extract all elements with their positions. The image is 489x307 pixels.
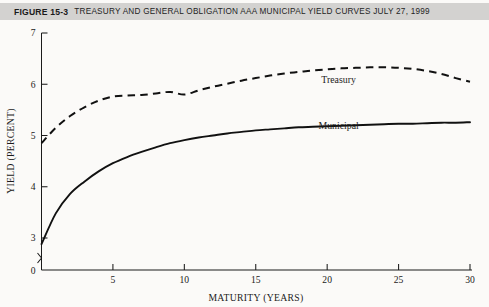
series-curve-treasury xyxy=(42,67,471,143)
x-tick-label-25: 25 xyxy=(394,274,404,285)
y-axis-title: YIELD (PERCENT) xyxy=(5,108,17,194)
y-tick-label-4: 4 xyxy=(31,181,36,192)
y-tick-label-5: 5 xyxy=(31,130,36,141)
figure-caption-band: FIGURE 15-3 Treasury and General Obligat… xyxy=(0,3,489,20)
figure-title: Treasury and General Obligation Aaa Muni… xyxy=(74,7,430,16)
x-tick-label-30: 30 xyxy=(465,274,475,285)
series-label-municipal: Municipal xyxy=(318,120,359,131)
y-tick-label-7: 7 xyxy=(31,27,36,38)
figure-caption-inner: FIGURE 15-3 Treasury and General Obligat… xyxy=(14,3,430,20)
series-label-treasury: Treasury xyxy=(321,74,356,85)
x-axis-ticks: 51015202530 xyxy=(111,264,475,285)
x-axis-title: MATURITY (YEARS) xyxy=(208,292,303,304)
y-tick-label-6: 6 xyxy=(31,79,36,90)
x-tick-label-5: 5 xyxy=(111,274,116,285)
y-tick-label-3: 3 xyxy=(31,232,36,243)
yield-curve-chart: 345670 51015202530 TreasuryMunicipal YIE… xyxy=(0,20,489,307)
figure-number: FIGURE 15-3 xyxy=(14,7,68,17)
series-curve-municipal xyxy=(42,122,471,244)
x-tick-label-20: 20 xyxy=(322,274,332,285)
series-inline-labels: TreasuryMunicipal xyxy=(318,74,359,131)
x-tick-label-15: 15 xyxy=(251,274,261,285)
y-tick-label-origin: 0 xyxy=(31,265,36,276)
x-tick-label-10: 10 xyxy=(180,274,190,285)
y-axis-break-mark xyxy=(38,253,42,263)
chart-svg: 345670 51015202530 TreasuryMunicipal YIE… xyxy=(0,20,489,307)
figure-container: FIGURE 15-3 Treasury and General Obligat… xyxy=(0,0,489,307)
chart-series-curves xyxy=(42,67,471,244)
